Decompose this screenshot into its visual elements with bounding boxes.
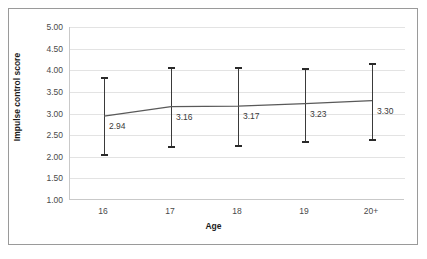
- data-value-label: 2.94: [109, 121, 126, 131]
- y-axis-tick-label: 3.00: [19, 110, 63, 119]
- x-axis-tick-label: 16: [73, 206, 133, 216]
- chart-figure: Impulse control score 5.004.504.003.503.…: [0, 0, 427, 259]
- data-value-label: 3.17: [243, 111, 260, 121]
- x-axis-tick-label: 20+: [341, 206, 401, 216]
- y-axis-tick-label: 1.00: [19, 196, 63, 205]
- y-axis-tick-label: 5.00: [19, 23, 63, 32]
- x-axis-tick-label: 18: [207, 206, 267, 216]
- y-axis-tick-label: 4.00: [19, 66, 63, 75]
- series-line: [70, 27, 405, 200]
- plot-area: 2.943.163.173.233.30: [69, 27, 404, 200]
- x-axis-tick-label: 17: [140, 206, 200, 216]
- y-axis-tick-label: 2.50: [19, 131, 63, 140]
- data-value-label: 3.23: [310, 109, 327, 119]
- y-axis-tick-label: 1.50: [19, 174, 63, 183]
- y-axis-tick-label: 3.50: [19, 88, 63, 97]
- x-axis-tick-label: 19: [274, 206, 334, 216]
- y-axis-tick-label: 4.50: [19, 45, 63, 54]
- x-axis-title: Age: [0, 221, 427, 231]
- data-value-label: 3.16: [176, 112, 193, 122]
- y-axis-tick-label: 2.00: [19, 153, 63, 162]
- data-value-label: 3.30: [377, 106, 394, 116]
